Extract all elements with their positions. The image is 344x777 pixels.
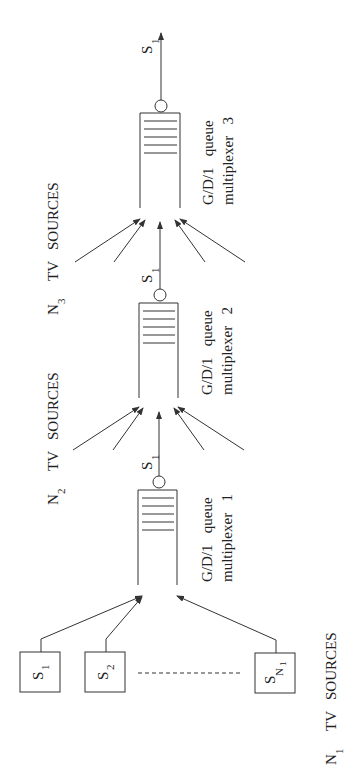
mux-3-line1: G/D/1 queue bbox=[200, 120, 216, 205]
arrow-g2-d bbox=[178, 407, 244, 450]
group1-label-sub: 1 bbox=[333, 749, 344, 755]
multiplexer-2: S 1 G/D/1 queue multiplexer 2 bbox=[139, 222, 235, 398]
arrow-s2-to-mux1 bbox=[106, 597, 142, 652]
arrow-g2-a bbox=[73, 407, 139, 450]
multiplexer-1: S 1 G/D/1 queue multiplexer 1 bbox=[138, 412, 235, 585]
queue-1-buffer bbox=[138, 490, 177, 585]
mux-2-line2: multiplexer 2 bbox=[219, 307, 235, 395]
multiplexer-3: S 1 G/D/1 queue multiplexer 3 bbox=[139, 33, 236, 208]
output-2-label: S bbox=[139, 275, 155, 283]
queue-2-buffer bbox=[139, 303, 178, 398]
output-1-sub: 1 bbox=[149, 455, 161, 461]
source-box-sn1: S N 1 bbox=[255, 653, 295, 693]
output-1-label: S bbox=[139, 462, 155, 470]
group2-label-n: N bbox=[45, 494, 61, 505]
server-2-icon bbox=[154, 289, 166, 301]
diagram-canvas: S 1 S 2 S N 1 N 1 TV SOURCES bbox=[0, 0, 344, 777]
group2-label-sub: 2 bbox=[55, 489, 67, 495]
arrow-g3-c bbox=[175, 220, 205, 262]
mux-1-line1: G/D/1 queue bbox=[199, 497, 215, 582]
server-1-icon bbox=[153, 476, 165, 488]
group1-label: N 1 TV SOURCES bbox=[323, 633, 344, 766]
mux-1-line2: multiplexer 1 bbox=[219, 494, 235, 582]
source-box-s1: S 1 bbox=[20, 652, 60, 692]
output-3-sub: 1 bbox=[149, 39, 161, 45]
source-s2-sub: 2 bbox=[104, 665, 116, 671]
group3-label-text: TV SOURCES bbox=[45, 183, 61, 282]
source-sn1-subsub: 1 bbox=[278, 662, 288, 667]
queue-3-buffer bbox=[140, 113, 180, 208]
group1-label-n: N bbox=[323, 754, 339, 765]
source-sn1-sub: N bbox=[273, 668, 285, 676]
arrow-sn1-to-mux1 bbox=[177, 596, 276, 653]
source-s2-label: S bbox=[95, 672, 111, 680]
server-3-icon bbox=[155, 100, 167, 112]
group2-label-text: TV SOURCES bbox=[45, 373, 61, 472]
source-box-s2: S 2 bbox=[85, 652, 125, 692]
output-3-label: S bbox=[139, 46, 155, 54]
group1-label-text: TV SOURCES bbox=[323, 633, 339, 732]
source-s1-label: S bbox=[30, 672, 46, 680]
group3-label-n: N bbox=[45, 304, 61, 315]
mux-3-line2: multiplexer 3 bbox=[220, 117, 236, 205]
group3-label: N 3 TV SOURCES bbox=[45, 183, 67, 316]
arrow-s1-to-mux1 bbox=[41, 596, 142, 652]
group3-label-sub: 3 bbox=[55, 298, 67, 304]
source-s1-sub: 1 bbox=[39, 665, 51, 671]
group2-label: N 2 TV SOURCES bbox=[45, 373, 67, 506]
output-2-sub: 1 bbox=[149, 268, 161, 274]
mux-2-line1: G/D/1 queue bbox=[199, 310, 215, 395]
